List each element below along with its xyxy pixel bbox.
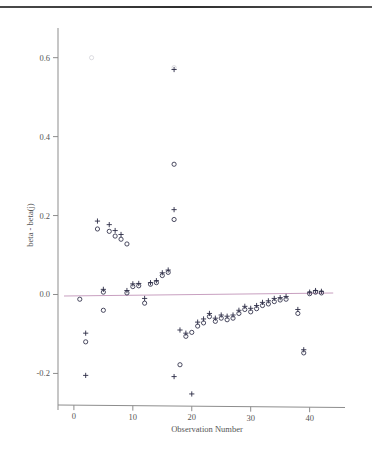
y-tick-label: -0.2 — [37, 368, 50, 378]
marker-circle — [107, 229, 111, 233]
y-tick-label: 0.2 — [39, 211, 50, 221]
marker-circle — [101, 308, 105, 312]
x-axis-title: Observation Number — [171, 424, 243, 434]
x-tick-label: 20 — [188, 412, 197, 422]
x-axis: 010203040 — [58, 405, 345, 423]
marker-circle — [95, 227, 99, 231]
marker-circle — [178, 363, 182, 367]
scatter-plot-figure: -0.20.00.20.40.6 010203040 Observation N… — [0, 0, 372, 456]
marker-plus — [83, 331, 88, 336]
marker-circle — [143, 301, 147, 305]
marker-plus — [189, 391, 194, 396]
marker-circle — [190, 330, 194, 334]
marker-circle — [78, 297, 82, 301]
y-axis-title: beta - beta(j) — [25, 203, 35, 247]
x-tick-label: 10 — [129, 412, 138, 422]
marker-plus — [171, 207, 176, 212]
zero-reference-line — [64, 293, 333, 296]
marker-plus — [107, 222, 112, 227]
x-tick-label: 30 — [246, 413, 255, 423]
marker-circle — [172, 162, 176, 166]
marker-circle — [89, 56, 93, 60]
x-axis-spine — [58, 405, 345, 408]
y-axis: -0.20.00.20.40.6 — [37, 28, 58, 410]
x-tick-label: 40 — [305, 413, 314, 423]
marker-circle — [84, 340, 88, 344]
marker-circle — [172, 217, 176, 221]
chart-canvas: -0.20.00.20.40.6 010203040 Observation N… — [0, 0, 372, 456]
marker-plus — [118, 232, 123, 237]
y-tick-label: 0.6 — [39, 53, 50, 63]
marker-plus — [113, 228, 118, 233]
marker-circle — [125, 242, 129, 246]
marker-plus — [142, 296, 147, 301]
marker-plus — [171, 374, 176, 379]
marker-plus — [95, 218, 100, 223]
data-points-layer — [78, 56, 324, 397]
reference-line — [64, 293, 333, 296]
x-tick-label: 0 — [72, 411, 76, 421]
marker-circle — [119, 237, 123, 241]
marker-circle — [113, 234, 117, 238]
y-tick-label: 0.0 — [39, 289, 50, 299]
y-tick-label: 0.4 — [39, 132, 50, 142]
marker-plus — [177, 327, 182, 332]
marker-plus — [83, 373, 88, 378]
